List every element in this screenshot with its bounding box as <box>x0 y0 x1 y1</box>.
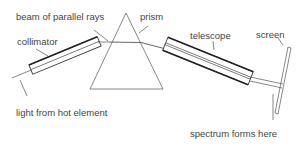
label-beam: beam of parallel rays <box>16 11 104 22</box>
screen <box>275 47 291 114</box>
leader-prism <box>139 26 148 33</box>
label-light-source: light from hot element <box>16 107 108 118</box>
ray-to-telescope <box>141 43 166 50</box>
label-telescope: telescope <box>190 30 231 41</box>
leader-light <box>20 80 27 96</box>
leader-telescope <box>213 41 214 50</box>
prism <box>90 13 163 89</box>
label-collimator: collimator <box>17 36 58 47</box>
label-screen: screen <box>256 29 285 40</box>
ray-to-screen-b <box>250 81 282 88</box>
spectrometer-diagram: beam of parallel rays prism collimator t… <box>0 0 296 151</box>
ray-to-screen-a <box>250 77 283 84</box>
ray-in-prism <box>109 42 141 43</box>
leader-collimator <box>36 49 48 56</box>
label-prism: prism <box>140 11 163 22</box>
telescope <box>163 37 254 84</box>
label-spectrum: spectrum forms here <box>190 128 277 139</box>
